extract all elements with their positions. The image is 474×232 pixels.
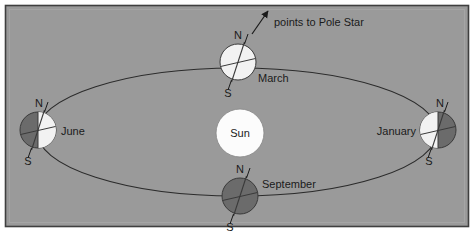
earth-march-pole-south: S: [224, 87, 231, 99]
sun-label: Sun: [230, 127, 250, 139]
diagram-canvas: Sun N S March N S: [0, 0, 474, 232]
earth-january-pole-south: S: [425, 155, 432, 167]
earth-june-pole-south: S: [24, 155, 31, 167]
pole-star-annotation: points to Pole Star: [274, 16, 364, 28]
earth-september-pole-north: N: [236, 163, 244, 175]
earth-september-label: September: [262, 178, 316, 190]
earth-january-label: January: [377, 125, 417, 137]
earth-january-pole-north: N: [436, 97, 444, 109]
earth-march-pole-north: N: [234, 29, 242, 41]
earth-june-label: June: [61, 125, 85, 137]
earth-march-label: March: [258, 72, 289, 84]
earth-orbit-diagram: Sun N S March N S: [0, 0, 474, 232]
earth-september-pole-south: S: [226, 221, 233, 232]
earth-june-pole-north: N: [35, 97, 43, 109]
